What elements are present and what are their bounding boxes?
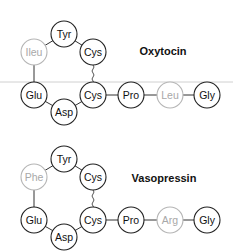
residue-asp: Asp (51, 99, 77, 125)
residue-cys-top: Cys (80, 164, 106, 190)
vasopressin-title: Vasopressin (132, 172, 197, 184)
residue-phe: Phe (21, 164, 47, 190)
svg-text:Asp: Asp (55, 106, 73, 118)
svg-text:Pro: Pro (123, 89, 140, 101)
svg-text:Tyr: Tyr (57, 153, 72, 165)
svg-text:Glu: Glu (26, 89, 43, 101)
residue-gly: Gly (194, 207, 220, 233)
residue-glu: Glu (21, 207, 47, 233)
svg-text:Pro: Pro (123, 214, 140, 226)
svg-text:Cys: Cys (84, 214, 102, 226)
residue-pro: Pro (118, 207, 144, 233)
svg-text:Tyr: Tyr (57, 28, 72, 40)
svg-text:Phe: Phe (25, 171, 44, 183)
residue-pro: Pro (118, 82, 144, 108)
svg-text:Ileu: Ileu (26, 46, 43, 58)
oxytocin-structure: Tyr Ileu Cys Glu Asp Cys Pro Leu Gly Oxy… (21, 21, 220, 125)
residue-tyr: Tyr (51, 146, 77, 172)
residue-leu: Leu (157, 82, 183, 108)
residue-arg: Arg (157, 207, 183, 233)
svg-text:Glu: Glu (26, 214, 43, 226)
svg-text:Leu: Leu (161, 89, 179, 101)
residue-tyr: Tyr (51, 21, 77, 47)
svg-text:Cys: Cys (84, 46, 102, 58)
oxytocin-title: Oxytocin (139, 45, 186, 57)
residue-cys-bottom: Cys (80, 207, 106, 233)
svg-text:Cys: Cys (84, 89, 102, 101)
vasopressin-structure: Tyr Phe Cys Glu Asp Cys Pro Arg Gly Vaso… (21, 146, 220, 250)
svg-text:Arg: Arg (162, 214, 179, 226)
residue-glu: Glu (21, 82, 47, 108)
peptide-diagram: Tyr Ileu Cys Glu Asp Cys Pro Leu Gly Oxy… (0, 0, 233, 252)
svg-text:Gly: Gly (199, 214, 216, 226)
svg-text:Gly: Gly (199, 89, 216, 101)
residue-asp: Asp (51, 224, 77, 250)
residue-ileu: Ileu (21, 39, 47, 65)
svg-text:Cys: Cys (84, 171, 102, 183)
residue-cys-bottom: Cys (80, 82, 106, 108)
svg-text:Asp: Asp (55, 231, 73, 243)
residue-gly: Gly (194, 82, 220, 108)
residue-cys-top: Cys (80, 39, 106, 65)
